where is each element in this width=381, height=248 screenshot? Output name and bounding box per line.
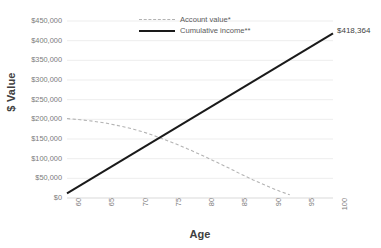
y-tick-label: $150,000 [0,135,62,143]
series-cumulative-income [67,33,333,193]
legend-label: Cumulative income** [180,26,250,35]
x-axis-title: Age [67,228,333,240]
retirement-projection-chart: $450,000 $400,000 $350,000 $300,000 $250… [0,0,381,248]
y-axis-title: $ Value [5,57,17,127]
x-tick-label: 75 [174,198,183,224]
x-tick-label: 90 [274,198,283,224]
x-tick-label: 100 [340,198,349,224]
y-tick-label: $100,000 [0,155,62,163]
legend-swatch-dashed-icon [139,19,175,20]
x-tick-label: 70 [141,198,150,224]
x-tick-label: 85 [240,198,249,224]
y-tick-label: $450,000 [0,17,62,25]
y-tick-label: $400,000 [0,37,62,45]
y-tick-label: $0 [0,194,62,202]
data-label-cumulative-income: $418,364 [337,26,370,35]
y-tick-label: $50,000 [0,174,62,182]
x-tick-label: 95 [307,198,316,224]
x-tick-label: 60 [74,198,83,224]
legend-swatch-solid-icon [139,30,175,32]
series-account-value [67,119,290,195]
legend-label: Account value* [180,15,231,24]
gridlines [67,21,333,198]
legend-item-cumulative-income: Cumulative income** [139,25,250,36]
chart-legend: Account value* Cumulative income** [139,14,250,36]
legend-item-account-value: Account value* [139,14,250,25]
x-tick-label: 80 [207,198,216,224]
x-tick-label: 65 [107,198,116,224]
